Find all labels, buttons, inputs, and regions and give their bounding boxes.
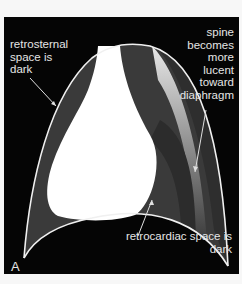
label-line: toward: [180, 76, 234, 89]
label-line: dark: [10, 63, 68, 76]
label-line: more: [180, 51, 234, 64]
label-line: spine: [180, 26, 234, 39]
spine-label: spine becomes more lucent toward diaphra…: [180, 26, 234, 101]
retrosternal-pointer: [30, 78, 56, 106]
label-line: retrocardiac space is: [126, 230, 232, 243]
label-line: space is: [10, 51, 68, 64]
retrosternal-label: retrosternal space is dark: [10, 38, 68, 76]
label-line: lucent: [180, 64, 234, 77]
label-line: diaphragm: [180, 89, 234, 102]
label-line: dark: [126, 243, 232, 256]
label-line: retrosternal: [10, 38, 68, 51]
retrocardiac-label: retrocardiac space is dark: [126, 230, 232, 255]
label-line: becomes: [180, 39, 234, 52]
panel-label: A: [11, 259, 20, 274]
